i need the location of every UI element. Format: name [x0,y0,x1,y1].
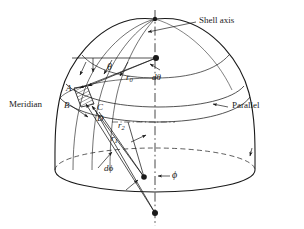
apex-dot [153,17,157,21]
label-r2: r2 [118,121,125,131]
label-shell-axis: Shell axis [199,16,234,25]
label-vertex-b: B [64,101,70,110]
r2-subscript: 2 [122,124,125,131]
label-vertex-c: C [97,103,103,112]
label-theta: θ [107,62,112,72]
label-meridian: Meridian [9,100,42,109]
r0-center-dot [153,55,159,61]
label-parallel: Parallel [232,101,260,110]
dtheta-symbol: θ [157,72,161,82]
label-dphi: dϕ [104,164,113,173]
callout-leaders [70,22,251,152]
figure-canvas: Shell axis Meridian Parallel θ r0 dθ A B… [0,0,304,229]
label-phi: ϕ [172,170,177,180]
r1-subscript: 1 [115,137,118,144]
label-r1: r1 [111,134,118,144]
shell-of-revolution-diagram [0,0,304,229]
label-r0: r0 [126,73,133,83]
theta-angle-arrows [80,58,128,76]
shell-base-rim [55,148,255,192]
r2-center-dot [141,174,147,180]
label-dtheta: dθ [152,73,161,82]
dphi-symbol: ϕ [109,163,114,173]
label-vertex-d: D [97,114,104,123]
label-vertex-a: A [66,84,72,93]
differential-element-abcd [74,86,94,107]
r1-center-dot [152,210,158,216]
meridian-line-right [155,19,232,90]
r0-subscript: 0 [130,76,133,83]
node-dots [141,17,159,216]
